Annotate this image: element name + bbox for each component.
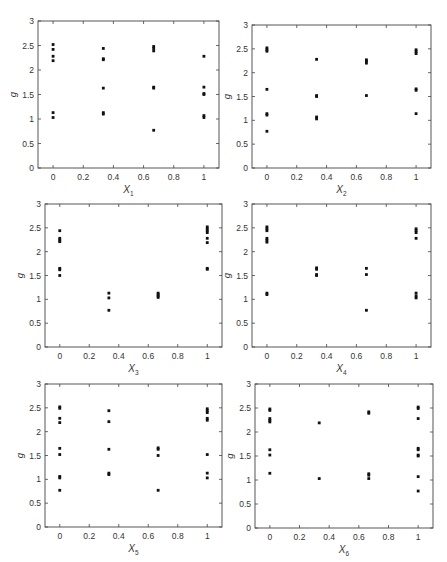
data-point (152, 129, 155, 132)
data-point (58, 229, 61, 232)
plot-frame (255, 384, 433, 528)
data-point (266, 293, 269, 296)
data-point (266, 229, 269, 232)
data-point (415, 292, 418, 295)
data-point (268, 448, 271, 451)
data-point (365, 309, 368, 312)
data-point (157, 454, 160, 457)
data-point (52, 111, 55, 114)
y-tick-label: 0.5 (22, 139, 34, 149)
data-point (417, 455, 420, 458)
y-tick-label: 0 (243, 342, 248, 352)
y-tick-label: 0 (243, 163, 248, 173)
y-tick-label: 3 (29, 16, 34, 26)
data-point (417, 490, 420, 493)
data-point (268, 472, 271, 475)
data-points (58, 225, 208, 311)
y-tick-label: 1.5 (22, 90, 34, 100)
y-axis-label: g (15, 452, 25, 458)
y-tick-label: 0 (36, 522, 41, 532)
data-point (417, 407, 420, 410)
y-tick-label: 1.5 (236, 92, 248, 102)
x-axis-label: X2 (335, 184, 347, 197)
data-point (206, 411, 209, 414)
x-tick-label: 0.2 (77, 172, 89, 182)
y-tick-label: 2 (36, 247, 41, 257)
data-point (58, 489, 61, 492)
data-point (417, 448, 420, 451)
x-axis-label: X5 (127, 543, 139, 556)
data-point (52, 55, 55, 58)
y-tick-label: 2 (243, 247, 248, 257)
plot-frame (252, 204, 431, 347)
y-tick-label: 2 (36, 427, 41, 437)
data-points (52, 43, 206, 132)
x-tick-label: 0.8 (380, 351, 392, 361)
data-point (315, 118, 318, 121)
data-point (102, 47, 105, 50)
data-point (157, 296, 160, 299)
x-tick-label: 0 (57, 531, 62, 541)
data-point (58, 447, 61, 450)
y-tick-label: 2 (246, 427, 251, 437)
data-point (206, 237, 209, 240)
y-axis-label: g (222, 272, 232, 278)
y-tick-label: 2.5 (29, 223, 41, 233)
data-point (315, 268, 318, 271)
data-point (365, 62, 368, 65)
data-point (58, 477, 61, 480)
x-tick-label: 0.6 (353, 532, 365, 542)
scatter-panel-x1: 00.511.522.5300.20.40.60.81gX1 (8, 15, 223, 206)
plot-frame (45, 204, 222, 347)
data-points (266, 225, 418, 311)
y-tick-label: 1 (243, 294, 248, 304)
data-point (107, 309, 110, 312)
data-point (206, 419, 209, 422)
x-tick-label: 0.8 (383, 532, 395, 542)
data-point (58, 421, 61, 424)
y-tick-label: 2.5 (236, 223, 248, 233)
x-tick-label: 0.2 (291, 172, 303, 182)
x-tick-label: 1 (414, 172, 419, 182)
data-point (206, 453, 209, 456)
y-tick-label: 3 (36, 199, 41, 209)
y-tick-label: 0 (246, 523, 251, 533)
data-point (203, 55, 206, 58)
data-point (102, 58, 105, 61)
data-point (206, 231, 209, 234)
y-tick-label: 0 (36, 342, 41, 352)
x-tick-label: 0.2 (291, 351, 303, 361)
data-point (58, 453, 61, 456)
x-tick-label: 0.8 (380, 172, 392, 182)
data-point (365, 273, 368, 276)
y-tick-label: 0 (29, 163, 34, 173)
data-point (52, 116, 55, 119)
data-point (415, 89, 418, 92)
data-points (58, 405, 208, 491)
data-point (52, 48, 55, 51)
y-tick-label: 1 (246, 475, 251, 485)
data-point (415, 237, 418, 240)
data-point (266, 114, 269, 117)
y-tick-label: 3 (243, 199, 248, 209)
x-axis-label: X6 (338, 544, 350, 557)
x-tick-label: 0.4 (323, 532, 335, 542)
data-points (266, 46, 418, 132)
data-point (58, 268, 61, 271)
y-tick-label: 2.5 (29, 403, 41, 413)
x-tick-label: 0.8 (172, 531, 184, 541)
x-tick-label: 1 (414, 351, 419, 361)
data-point (318, 477, 321, 480)
data-point (58, 274, 61, 277)
data-point (107, 420, 110, 423)
data-point (268, 421, 271, 424)
data-point (107, 448, 110, 451)
x-tick-label: 0.4 (113, 531, 125, 541)
x-tick-label: 0.4 (321, 351, 333, 361)
y-axis-label: g (222, 93, 232, 99)
data-point (415, 112, 418, 115)
y-axis-label: g (8, 91, 18, 97)
data-point (206, 241, 209, 244)
data-point (107, 473, 110, 476)
x-tick-label: 0 (51, 172, 56, 182)
